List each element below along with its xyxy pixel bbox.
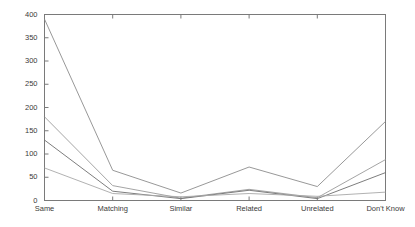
x-axis-tick-marks (113, 15, 318, 201)
y-tick-label: 50 (0, 173, 38, 181)
plot-frame (45, 15, 386, 201)
y-tick-label: 300 (0, 57, 38, 65)
y-tick-label: 0 (0, 197, 38, 205)
y-tick-label: 200 (0, 104, 38, 112)
chart-figure: 050100150200250300350400 SameMatchingSim… (0, 0, 415, 227)
y-tick-label: 150 (0, 127, 38, 135)
y-tick-label: 350 (0, 34, 38, 42)
x-tick-label: Don't Know (346, 205, 415, 213)
y-tick-label: 100 (0, 150, 38, 158)
plot-border (45, 15, 386, 201)
series-line-3 (45, 140, 386, 199)
series-line-2 (45, 117, 386, 198)
y-tick-label: 250 (0, 80, 38, 88)
y-axis-tick-marks (45, 15, 49, 201)
y-tick-label: 400 (0, 11, 38, 19)
line-chart-plot (0, 0, 415, 227)
data-series-group (45, 19, 386, 198)
series-line-1 (45, 19, 386, 193)
